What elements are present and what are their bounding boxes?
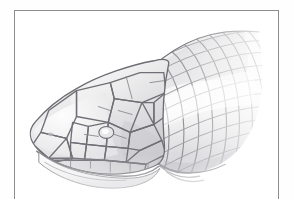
picture-frame: Snake Head Pencil Study graphite pencil … (14, 10, 279, 199)
drawing-page: Snake Head Pencil Study graphite pencil … (0, 0, 294, 199)
artwork-canvas (15, 11, 278, 199)
sketch-fade-bottom (15, 11, 278, 199)
snake-head-drawing (15, 11, 278, 199)
